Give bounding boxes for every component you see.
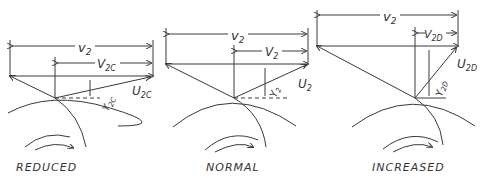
caption-increased: INCREASED bbox=[372, 161, 445, 174]
label-V2D: V2D bbox=[424, 28, 443, 43]
diagram-reduced: v2 V2C U2C Y2C REDUCED bbox=[8, 40, 153, 174]
blade-curve bbox=[55, 98, 86, 147]
label-U2C: U2C bbox=[132, 84, 152, 100]
label-V2: V2 bbox=[265, 45, 278, 61]
label-U2: U2 bbox=[298, 77, 312, 93]
label-v2: v2 bbox=[231, 28, 245, 45]
label-V2C: V2C bbox=[97, 57, 116, 73]
rotation-arrow-inner bbox=[215, 144, 253, 152]
diagram-normal: v2 V2 U2 Y2 NORMAL bbox=[166, 28, 312, 174]
caption-reduced: REDUCED bbox=[16, 161, 77, 174]
rotation-arrow-inner bbox=[35, 144, 73, 150]
label-Y2C: Y2C bbox=[100, 94, 118, 114]
label-Y2D: Y2D bbox=[433, 79, 450, 98]
impeller-arc bbox=[8, 100, 142, 126]
diagram-increased: v2 V2D U2D Y2D INCREASED bbox=[317, 9, 477, 174]
label-Y2: Y2 bbox=[268, 84, 284, 99]
rotation-arrow-outer bbox=[383, 136, 438, 149]
caption-normal: NORMAL bbox=[206, 161, 260, 174]
rotation-arrow-outer bbox=[205, 136, 258, 150]
impeller-arc bbox=[352, 104, 475, 127]
label-v2: v2 bbox=[383, 9, 397, 26]
impeller-arc bbox=[173, 103, 296, 127]
velocity-triangles-diagram: v2 V2C U2C Y2C REDUCED v2 V2 U2 Y bbox=[0, 0, 495, 178]
label-v2: v2 bbox=[78, 40, 92, 57]
rotation-arrow-inner bbox=[393, 144, 432, 152]
label-U2D: U2D bbox=[457, 57, 477, 73]
